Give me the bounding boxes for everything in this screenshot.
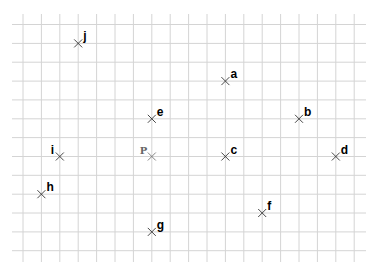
point-label: f: [267, 199, 272, 213]
point-f: f: [258, 199, 272, 217]
point-label: c: [230, 143, 237, 157]
point-j: j: [74, 29, 86, 47]
point-g: g: [148, 218, 164, 236]
point-label: P: [140, 145, 148, 156]
point-label: e: [157, 105, 164, 119]
point-b: b: [295, 105, 311, 123]
point-label: i: [51, 143, 54, 157]
grid-diagram: jaebiPcdhfg: [0, 0, 376, 273]
point-label: b: [304, 105, 311, 119]
point-label: g: [157, 218, 164, 232]
point-c: c: [221, 143, 237, 161]
point-p: P: [140, 145, 156, 161]
point-e: e: [148, 105, 164, 123]
point-h: h: [37, 180, 53, 198]
point-label: a: [230, 67, 237, 81]
point-i: i: [51, 143, 64, 161]
grid: [12, 14, 366, 262]
points: jaebiPcdhfg: [37, 29, 348, 236]
point-d: d: [332, 143, 348, 161]
point-label: j: [82, 29, 86, 43]
point-a: a: [221, 67, 237, 85]
point-label: d: [341, 143, 348, 157]
point-label: h: [46, 180, 53, 194]
